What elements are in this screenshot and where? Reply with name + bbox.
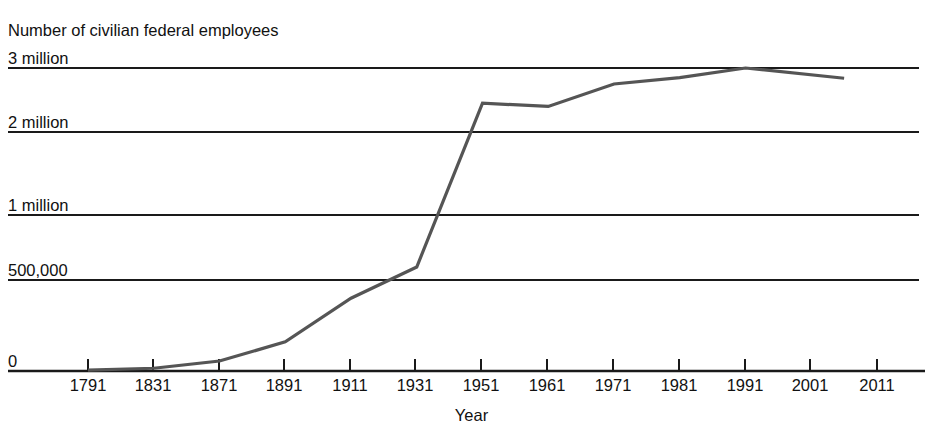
y-tick-label-0: 0 xyxy=(8,353,17,370)
x-tick-label-1911: 1911 xyxy=(332,377,367,394)
x-axis-ticks xyxy=(88,359,877,371)
x-tick-label-1891: 1891 xyxy=(266,377,303,394)
x-axis-title: Year xyxy=(0,406,943,425)
x-tick-label-1951: 1951 xyxy=(463,377,500,394)
data-series-line xyxy=(88,68,844,370)
x-tick-label-1991: 1991 xyxy=(727,377,764,394)
x-tick-label-1871: 1871 xyxy=(201,377,238,394)
x-tick-label-2001: 2001 xyxy=(792,377,829,394)
x-tick-label-2011: 2011 xyxy=(859,377,894,394)
x-tick-label-1961: 1961 xyxy=(529,377,566,394)
chart-container: Number of civilian federal employees xyxy=(0,0,943,445)
y-tick-label-3-million: 3 million xyxy=(8,50,69,67)
x-tick-label-1981: 1981 xyxy=(661,377,698,394)
x-tick-label-1831: 1831 xyxy=(135,377,172,394)
x-tick-label-1931: 1931 xyxy=(397,377,434,394)
x-tick-label-1791: 1791 xyxy=(70,377,107,394)
y-tick-label-1-million: 1 million xyxy=(8,197,69,214)
y-tick-label-500000: 500,000 xyxy=(8,262,68,279)
y-tick-label-2-million: 2 million xyxy=(8,114,69,131)
gridlines xyxy=(8,68,925,371)
x-tick-label-1971: 1971 xyxy=(595,377,632,394)
